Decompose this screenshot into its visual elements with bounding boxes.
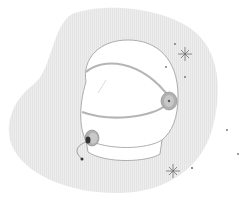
star-dot bbox=[165, 66, 167, 68]
microphone-tip bbox=[81, 158, 84, 161]
illustration-svg bbox=[0, 0, 240, 200]
astronaut-helmet-illustration bbox=[0, 0, 240, 200]
star-dot bbox=[184, 76, 186, 78]
earpiece-left bbox=[85, 130, 99, 146]
star-dot bbox=[174, 43, 176, 45]
star-dot bbox=[226, 129, 228, 131]
earpiece-right bbox=[161, 92, 177, 110]
star-dot bbox=[237, 153, 239, 155]
star-dot bbox=[191, 167, 193, 169]
